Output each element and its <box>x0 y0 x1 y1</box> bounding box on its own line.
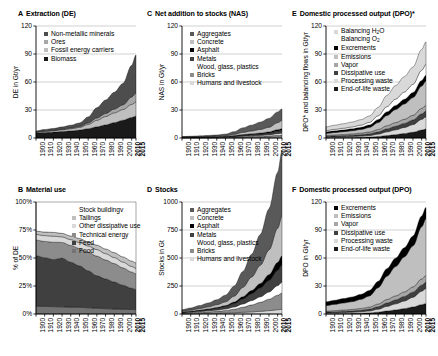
x-tick-label: 2000 <box>416 318 423 344</box>
y-tick-label: 60 <box>146 78 178 85</box>
y-tick-label: 25% <box>0 282 32 289</box>
legend-swatch <box>334 38 338 42</box>
x-tick-label: 1980 <box>108 318 115 344</box>
x-tick-label: 1930 <box>65 318 72 344</box>
y-tick-label: 0 <box>0 134 32 141</box>
legend-swatch <box>44 32 48 36</box>
x-tick-label: 1990 <box>117 142 124 168</box>
x-tick-label: 1970 <box>389 142 396 168</box>
legend-item: End-of-life waste <box>334 85 393 93</box>
y-tick-label: 60 <box>290 254 322 261</box>
legend-d: AggregatesConcreteAsphaltMetalsWood, gla… <box>190 206 261 263</box>
panel-title-text: Domestic processed output (DPO) <box>299 186 411 194</box>
x-tick-label: 2015 <box>429 142 436 168</box>
legend-item: Stock buildingv <box>72 206 140 214</box>
panel-letter-d: D <box>147 186 152 194</box>
x-tick-label: 2000 <box>126 318 133 344</box>
legend-b: Stock buildingvTailingsOther dissipative… <box>72 206 140 255</box>
x-tick-label: 1920 <box>346 142 353 168</box>
legend-item: Concrete <box>190 38 261 46</box>
legend-swatch <box>190 73 194 77</box>
legend-item: Aggregates <box>190 30 261 38</box>
panel-title-e: EDomestic processed output (DPO)* <box>292 10 415 18</box>
legend-item-label: Wood, glass, plastics <box>197 63 259 71</box>
legend-item-label: Bricks <box>197 71 215 79</box>
panel-title-text: Stocks <box>155 186 178 194</box>
x-tick-label: 2000 <box>272 318 279 344</box>
legend-item-label: Excrements <box>341 204 376 212</box>
x-tick-label: 1950 <box>228 318 235 344</box>
legend-swatch <box>190 208 194 212</box>
y-tick-label: 30 <box>290 106 322 113</box>
legend-e: Balancing H2OBalancing O2ExcrementsEmiss… <box>334 28 393 94</box>
x-tick-label: 1980 <box>398 142 405 168</box>
x-tick-label: 1900 <box>39 142 46 168</box>
legend-item-label: Excrements <box>341 44 376 52</box>
x-tick-label: 1930 <box>211 142 218 168</box>
legend-item-label: Wood, glass, plastics <box>197 239 259 247</box>
x-tick-label: 1930 <box>65 142 72 168</box>
legend-swatch <box>72 233 76 237</box>
y-tick-label: 90 <box>146 50 178 57</box>
x-tick-label: 1990 <box>263 142 270 168</box>
x-tick-label: 1920 <box>56 142 63 168</box>
legend-item: Biomass <box>44 55 114 63</box>
y-tick-label: 120 <box>290 22 322 29</box>
legend-item-label: Stock buildingv <box>79 206 123 214</box>
x-tick-label: 2015 <box>139 142 146 168</box>
panel-letter-c: C <box>147 10 152 18</box>
panel-title-b: BMaterial use <box>18 186 66 194</box>
x-tick-label: 1940 <box>73 318 80 344</box>
legend-item: Vapor <box>334 220 393 228</box>
x-tick-label: 1930 <box>211 318 218 344</box>
legend-item-label: Other dissipative use <box>79 222 140 230</box>
legend-item: Ores <box>44 38 114 46</box>
legend-item: Tailings <box>72 214 140 222</box>
x-tick-label: 1940 <box>363 142 370 168</box>
x-tick-label: 1950 <box>372 142 379 168</box>
x-tick-label: 1910 <box>193 318 200 344</box>
x-tick-label: 2000 <box>126 142 133 168</box>
legend-swatch <box>72 208 76 212</box>
x-tick-label: 1940 <box>219 142 226 168</box>
x-tick-label: 2015 <box>285 142 292 168</box>
legend-item: Vapor <box>334 61 393 69</box>
x-tick-label: 1990 <box>407 142 414 168</box>
legend-item-label: Metals <box>197 55 216 63</box>
legend-item: Feed <box>72 239 140 247</box>
legend-item-label: Concrete <box>197 38 224 46</box>
legend-f: ExcrementsEmissionsVaporDissipative useP… <box>334 204 393 253</box>
legend-swatch <box>72 241 76 245</box>
legend-item-label: Feed <box>79 239 94 247</box>
legend-swatch <box>334 87 338 91</box>
panel-title-text: Material use <box>26 186 66 194</box>
figure-panel-grid: AExtraction (DE)DE in Gt/yr0306090120190… <box>0 0 438 356</box>
legend-item-label: Processing waste <box>341 237 393 245</box>
legend-item: Bricks <box>190 247 261 255</box>
y-tick-label: 90 <box>0 50 32 57</box>
x-tick-label: 1960 <box>237 142 244 168</box>
legend-swatch <box>190 81 194 85</box>
legend-item: Wood, glass, plastics <box>190 63 261 71</box>
legend-item: Bricks <box>190 71 261 79</box>
x-tick-label: 1900 <box>185 142 192 168</box>
legend-item: Humans and livestock <box>190 79 261 87</box>
legend-item-label: Asphalt <box>197 46 219 54</box>
legend-item-label: Bricks <box>197 247 215 255</box>
x-tick-label: 2015 <box>139 318 146 344</box>
x-tick-label: 1960 <box>381 142 388 168</box>
legend-item-label: Biomass <box>51 55 76 63</box>
legend-swatch <box>334 247 338 251</box>
panel-title-text: Net addition to stocks (NAS) <box>155 10 248 18</box>
y-tick-label: 30 <box>146 106 178 113</box>
y-tick-label: 0 <box>146 134 178 141</box>
legend-swatch <box>334 55 338 59</box>
x-tick-label: 1940 <box>73 142 80 168</box>
legend-swatch <box>44 48 48 52</box>
legend-swatch <box>190 57 194 61</box>
legend-swatch <box>334 231 338 235</box>
x-tick-label: 1900 <box>39 318 46 344</box>
x-tick-label: 1910 <box>193 142 200 168</box>
x-tick-label: 1970 <box>245 318 252 344</box>
legend-swatch <box>190 40 194 44</box>
